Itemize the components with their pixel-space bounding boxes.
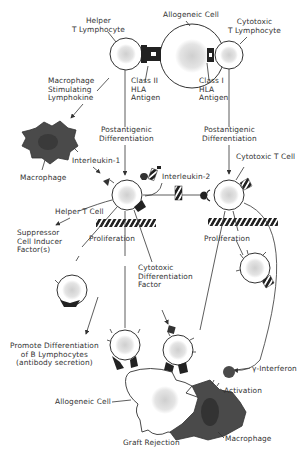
label-proliferation-right: Proliferation	[204, 235, 250, 244]
label-cytotoxic-t-cell: Cytotoxic T Cell	[236, 153, 295, 162]
label-macrophage-stimulating-lymphokine: Macrophage Stimulating Lymphokine	[48, 77, 95, 103]
proliferation-bar-right	[208, 218, 278, 226]
label-postantigenic-differentiation-left: Postantigenic Differentiation	[99, 126, 154, 143]
effector-cell-bottom-left	[107, 329, 140, 370]
label-interleukin-2: Interleukin-2	[162, 173, 210, 182]
label-allogeneic-cell-top: Allogeneic Cell	[163, 11, 219, 20]
label-helper-t-lymphocyte: Helper T Lymphocyte	[72, 17, 125, 34]
immune-response-diagram: Allogeneic Cell Helper T Lymphocyte Cyto…	[0, 0, 308, 452]
il2-receptor-cluster	[140, 166, 161, 181]
label-macrophage-top: Macrophage	[20, 174, 67, 183]
label-macrophage-bottom: Macrophage	[225, 435, 272, 444]
label-promote-differentiation-b-lymphocytes: Promote Differentiation of B Lymphocytes…	[10, 342, 99, 368]
label-allogeneic-cell-bottom: Allogeneic Cell	[55, 398, 111, 407]
cytotoxic-t-cell-proliferated	[236, 250, 274, 288]
label-graft-rejection: Graft Rejection	[123, 439, 180, 448]
label-suppressor-cell-inducer-factors: Suppressor Cell Inducer Factor(s)	[17, 229, 62, 255]
label-cytotoxic-differentiation-factor: Cytotoxic Differentiation Factor	[138, 264, 193, 290]
cytotoxic-t-cell-middle	[214, 178, 252, 210]
gamma-interferon-molecule	[223, 366, 235, 378]
class-i-receptor	[207, 48, 214, 62]
label-proliferation-left: Proliferation	[89, 235, 135, 244]
diagram-graphics	[0, 0, 308, 452]
label-cytotoxic-t-lymphocyte: Cytotoxic T Lymphocyte	[228, 18, 281, 35]
label-interleukin-1: Interleukin-1	[72, 157, 120, 166]
label-class-ii-hla-antigen: Class II HLA Antigen	[131, 77, 160, 103]
label-gamma-interferon: γ-Interferon	[252, 365, 297, 374]
helper-t-cell-proliferated	[55, 275, 87, 307]
effector-cell-bottom-right	[163, 332, 196, 374]
helper-t-lymphocyte-top	[110, 38, 142, 70]
label-class-i-hla-antigen: Class I HLA Antigen	[199, 77, 228, 103]
label-activation: Activation	[224, 387, 262, 396]
label-postantigenic-differentiation-right: Postantigenic Differentiation	[202, 126, 257, 143]
cytotoxic-t-lymphocyte-top	[215, 41, 243, 69]
label-helper-t-cell: Helper T Cell	[55, 208, 104, 217]
class-ii-receptor	[141, 45, 161, 63]
